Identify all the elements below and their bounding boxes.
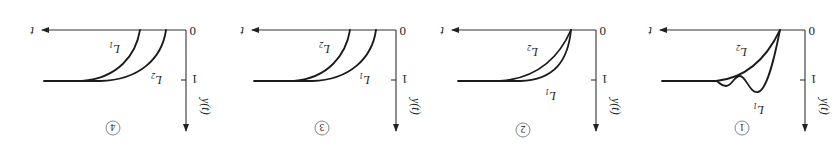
curve-label-L1: L1	[109, 40, 121, 56]
panel-2: 0 1 t y(t) L2 L1 2	[440, 24, 623, 137]
y-axis-label: y(t)	[409, 97, 423, 115]
time-axis-label: t	[648, 24, 652, 39]
curve-label-L2: L2	[319, 40, 331, 56]
origin-label: 0	[809, 24, 816, 39]
curve-label-L1: L1	[359, 71, 371, 87]
curve-L1	[44, 30, 140, 81]
y-axis-label: y(t)	[199, 97, 213, 115]
tick-label: 1	[811, 72, 818, 87]
curve-L2	[662, 30, 780, 81]
origin-label: 0	[400, 24, 407, 39]
curve-label-L2: L2	[527, 43, 539, 59]
panel-1: 0 1 t y(t) L2 L1 1	[648, 24, 832, 135]
time-axis-label: t	[440, 24, 444, 39]
curve-label-L1: L1	[753, 101, 765, 117]
tick-label: 1	[402, 72, 409, 87]
curve-L1	[716, 30, 780, 92]
step-response-figure: 0 1 t y(t) L1 L2 4 0 1 t y(t) L2 L1 3 0 …	[0, 0, 839, 151]
panel-number: 3	[320, 122, 325, 133]
tick-label: 1	[602, 72, 609, 87]
y-axis-label: y(t)	[818, 97, 832, 115]
origin-label: 0	[600, 24, 607, 39]
curve-label-L2: L2	[151, 71, 163, 87]
origin-label: 0	[190, 24, 197, 39]
panel-number: 4	[111, 122, 116, 133]
tick-label: 1	[192, 72, 199, 87]
curve-label-L1: L1	[545, 87, 557, 103]
time-axis-label: t	[30, 24, 34, 39]
panel-number: 1	[740, 122, 745, 133]
time-axis-label: t	[240, 24, 244, 39]
curve-L2	[458, 30, 571, 81]
curve-L2	[254, 30, 350, 81]
panel-3: 0 1 t y(t) L2 L1 3	[240, 24, 423, 135]
curve-label-L2: L2	[736, 43, 748, 59]
panel-number: 2	[521, 124, 526, 135]
panel-4: 0 1 t y(t) L1 L2 4	[30, 24, 213, 135]
y-axis-label: y(t)	[609, 97, 623, 115]
